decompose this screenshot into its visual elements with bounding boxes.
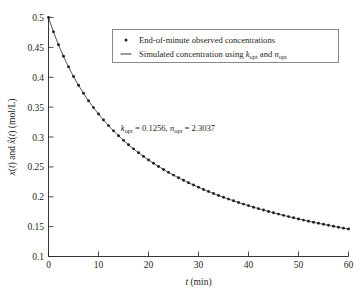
data-point <box>237 201 240 204</box>
data-point <box>287 215 290 218</box>
data-point <box>267 210 270 213</box>
data-point <box>132 147 135 150</box>
legend-sim-k-sub: opt <box>250 53 258 60</box>
y-tick-label: 0.1 <box>32 252 44 262</box>
data-point <box>167 171 170 174</box>
x-tick-label: 10 <box>94 260 104 270</box>
data-point <box>222 196 225 199</box>
data-point <box>137 151 140 154</box>
x-tick-label: 0 <box>46 260 51 270</box>
legend-sim-prefix: Simulated concentration using <box>139 49 246 59</box>
data-point <box>232 199 235 202</box>
y-tick-label: 0.5 <box>32 13 44 23</box>
figure-container: 0.1 0.15 0.2 0.25 0.3 0.35 0.4 0.45 0.5 … <box>0 0 364 298</box>
y-tick-labels: 0.1 0.15 0.2 0.25 0.3 0.35 0.4 0.45 0.5 <box>27 13 44 262</box>
chart-svg: 0.1 0.15 0.2 0.25 0.3 0.35 0.4 0.45 0.5 … <box>0 0 364 298</box>
data-point <box>342 227 345 230</box>
legend-label-simulated: Simulated concentration using kopt and n… <box>139 49 287 60</box>
data-point <box>157 165 160 168</box>
annot-n-value: = 2.3037 <box>182 123 215 133</box>
y-tick-label: 0.2 <box>32 192 44 202</box>
data-point <box>182 179 185 182</box>
data-point <box>292 216 295 219</box>
data-point <box>52 30 55 33</box>
x-axis-ticks <box>49 252 349 257</box>
x-tick-label: 50 <box>294 260 304 270</box>
data-point <box>147 158 150 161</box>
data-point <box>87 99 90 102</box>
data-point <box>192 184 195 187</box>
x-tick-label: 30 <box>194 260 204 270</box>
data-point <box>297 218 300 221</box>
y-tick-label: 0.35 <box>27 103 44 113</box>
data-point <box>327 224 330 227</box>
data-point <box>332 225 335 228</box>
data-point <box>47 16 50 19</box>
data-point <box>57 43 60 46</box>
y-tick-label: 0.3 <box>32 133 44 143</box>
data-point <box>67 65 70 68</box>
data-point <box>247 204 250 207</box>
x-axis-label: t (min) <box>185 277 211 288</box>
data-point <box>97 113 100 116</box>
data-point <box>142 155 145 158</box>
data-point <box>162 168 165 171</box>
data-point <box>127 143 130 146</box>
data-point <box>82 92 85 95</box>
y-axis-ticks <box>49 18 54 257</box>
x-axis-label-unit: (min) <box>188 277 211 288</box>
data-point <box>337 226 340 229</box>
x-tick-label: 60 <box>344 260 354 270</box>
data-point <box>282 214 285 217</box>
parameter-annotation: kopt = 0.1256, nopt = 2.3037 <box>121 123 216 134</box>
annot-n-sub: opt <box>174 127 182 134</box>
x-tick-labels: 0 10 20 30 40 50 60 <box>46 260 353 270</box>
data-point <box>187 181 190 184</box>
data-point <box>202 188 205 191</box>
data-point <box>217 194 220 197</box>
data-point <box>107 124 110 127</box>
annot-k-sub: opt <box>125 127 133 134</box>
y-axis-label: x(t) and x̂(t) (mol/L) <box>7 99 18 177</box>
data-point <box>212 192 215 195</box>
data-point <box>317 222 320 225</box>
data-point <box>177 176 180 179</box>
data-point <box>262 209 265 212</box>
data-point <box>102 119 105 122</box>
data-point <box>62 55 65 58</box>
data-point <box>302 219 305 222</box>
legend-label-observed: End-of-minute observed concentrations <box>139 35 276 45</box>
data-point <box>207 190 210 193</box>
data-point <box>122 139 125 142</box>
y-tick-label: 0.15 <box>27 222 44 232</box>
legend-marker-dot-icon <box>125 39 128 42</box>
y-tick-label: 0.25 <box>27 162 44 172</box>
y-label-and: ) and <box>7 144 18 166</box>
data-point <box>252 206 255 209</box>
data-point <box>272 211 275 214</box>
data-point <box>322 223 325 226</box>
data-point <box>172 174 175 177</box>
data-point <box>312 221 315 224</box>
data-point <box>72 75 75 78</box>
x-tick-label: 20 <box>144 260 154 270</box>
data-point <box>197 186 200 189</box>
data-point <box>242 203 245 206</box>
x-tick-label: 40 <box>244 260 254 270</box>
data-point <box>227 198 230 201</box>
data-point <box>117 134 120 137</box>
data-point <box>77 84 80 87</box>
data-point <box>152 162 155 165</box>
legend-sim-mid: and <box>258 49 275 59</box>
y-label-unit: ) (mol/L) <box>7 99 18 134</box>
data-point <box>277 213 280 216</box>
data-point <box>257 207 260 210</box>
annot-k-value: = 0.1256, <box>133 123 170 133</box>
data-point <box>92 106 95 109</box>
y-tick-label: 0.45 <box>27 43 44 53</box>
data-point <box>112 129 115 132</box>
legend-sim-n-sub: opt <box>279 53 287 60</box>
y-tick-label: 0.4 <box>32 73 44 83</box>
data-point <box>347 228 350 231</box>
legend: End-of-minute observed concentrations Si… <box>113 30 339 63</box>
